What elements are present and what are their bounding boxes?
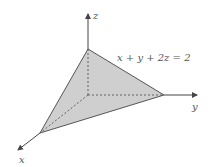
x-axis-label: x: [19, 155, 25, 165]
plane-diagram: z y x x + y + 2z = 2: [0, 0, 212, 167]
z-axis-label: z: [93, 11, 98, 21]
y-axis-label: y: [192, 102, 198, 112]
x-axis: [18, 133, 40, 150]
plane-diagram-svg: [0, 0, 212, 167]
plane-equation: x + y + 2z = 2: [117, 53, 191, 63]
